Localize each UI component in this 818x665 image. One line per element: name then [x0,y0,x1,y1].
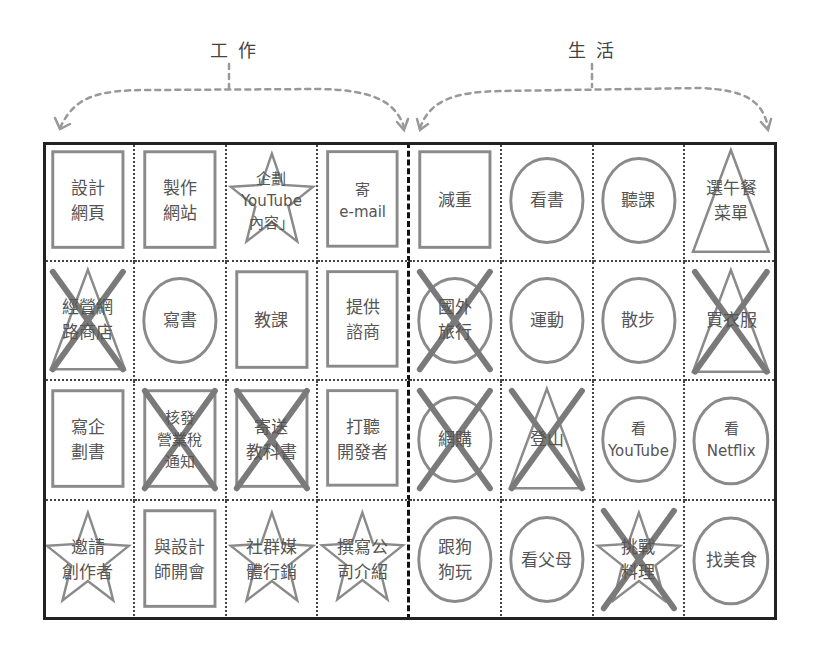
task-cell-work: 教課 [227,262,319,382]
task-cell-work: 製作 網站 [135,142,227,262]
task-cell-work: 核發 營業稅 通知 [135,381,227,501]
task-label: 挑戰 料理 [594,501,684,621]
task-cell-work: 提供 諮商 [318,262,410,382]
arrowhead-icon [761,119,771,130]
task-label: 看 Netflix [685,381,777,499]
task-cell-life: 買衣服 [685,262,777,382]
task-cell-life: 看 Netflix [685,381,777,501]
task-cell-life: 看書 [502,142,594,262]
arrowhead-icon [55,118,70,129]
task-label: 寄 e-mail [318,142,407,260]
work-bracket-arrow [60,89,404,128]
task-grid: 設計 網頁製作 網站企劃 YouTube 內容」寄 e-mail減重看書聽課選午… [43,142,777,620]
task-cell-life: 減重 [410,142,502,262]
task-label: 撰寫公 司介紹 [318,501,407,621]
task-label: 看書 [502,142,592,260]
task-label: 寄送 教科書 [227,381,317,499]
task-label: 社群媒 體行銷 [227,501,317,621]
task-label: 設計 網頁 [43,142,133,260]
task-label: 寫書 [135,262,225,380]
arrowhead-icon [397,119,408,130]
task-label: 寫企 劃書 [43,381,133,499]
task-cell-life: 找美食 [685,501,777,621]
task-label: 運動 [502,262,592,380]
task-cell-work: 打聽 開發者 [318,381,410,501]
task-cell-life: 散步 [594,262,686,382]
task-cell-work: 社群媒 體行銷 [227,501,319,621]
task-label: 聽課 [594,142,684,260]
task-cell-life: 聽課 [594,142,686,262]
task-cell-work: 寫企 劃書 [43,381,135,501]
task-label: 經營網 路商店 [43,262,133,380]
task-label: 製作 網站 [135,142,225,260]
task-label: 登山 [502,381,592,499]
task-label: 核發 營業稅 通知 [135,381,225,499]
task-cell-work: 設計 網頁 [43,142,135,262]
task-label: 網購 [410,381,500,499]
task-label: 邀請 創作者 [43,501,133,621]
task-label: 看父母 [502,501,592,621]
task-cell-life: 選午餐 菜單 [685,142,777,262]
task-cell-life: 看 YouTube [594,381,686,501]
task-label: 與設計 師開會 [135,501,225,621]
task-label: 買衣服 [685,262,777,380]
task-label: 跟狗 狗玩 [410,501,500,621]
task-cell-work: 寄 e-mail [318,142,410,262]
task-cell-life: 跟狗 狗玩 [410,501,502,621]
task-cell-life: 國外 旅行 [410,262,502,382]
task-label: 國外 旅行 [410,262,500,380]
task-cell-life: 運動 [502,262,594,382]
task-cell-work: 經營網 路商店 [43,262,135,382]
arrowhead-icon [417,119,428,130]
task-label: 找美食 [685,501,777,621]
task-cell-work: 企劃 YouTube 內容」 [227,142,319,262]
task-label: 減重 [410,142,500,260]
task-cell-work: 與設計 師開會 [135,501,227,621]
task-label: 教課 [227,262,317,380]
task-cell-work: 寫書 [135,262,227,382]
task-cell-work: 寄送 教科書 [227,381,319,501]
task-cell-life: 網購 [410,381,502,501]
task-label: 選午餐 菜單 [685,142,777,260]
work-header: 工作 [210,36,266,62]
task-label: 提供 諮商 [318,262,407,380]
task-label: 企劃 YouTube 內容」 [227,142,317,260]
task-cell-life: 看父母 [502,501,594,621]
task-cell-life: 挑戰 料理 [594,501,686,621]
life-header: 生活 [568,36,624,62]
task-cell-work: 撰寫公 司介紹 [318,501,410,621]
life-bracket-arrow [420,88,768,128]
task-label: 散步 [594,262,684,380]
task-label: 看 YouTube [594,381,684,499]
task-cell-work: 邀請 創作者 [43,501,135,621]
task-label: 打聽 開發者 [318,381,407,499]
task-cell-life: 登山 [502,381,594,501]
